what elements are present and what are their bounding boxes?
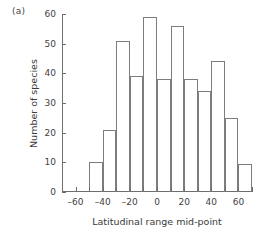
- panel-label: (a): [12, 6, 25, 16]
- x-axis-minor-tick: [171, 187, 172, 192]
- x-axis-tick-label: 0: [154, 197, 160, 207]
- histogram-bar: [225, 118, 239, 192]
- y-axis-tick-label: 0: [50, 187, 56, 197]
- x-axis-minor-tick: [225, 187, 226, 192]
- x-axis-tick-label: 60: [233, 197, 244, 207]
- y-axis-label: Number of species: [28, 59, 39, 148]
- x-axis-tick: [238, 187, 239, 192]
- x-axis-tick-label: 40: [206, 197, 217, 207]
- y-axis-tick-label: 50: [45, 39, 56, 49]
- x-axis-tick-label: –60: [68, 197, 84, 207]
- x-axis-minor-tick: [252, 187, 253, 192]
- x-axis-minor-tick: [198, 187, 199, 192]
- y-axis-tick: [62, 133, 66, 134]
- histogram-bar: [171, 26, 185, 192]
- x-axis-tick: [157, 187, 158, 192]
- histogram-bar: [130, 76, 144, 192]
- x-axis-tick: [130, 187, 131, 192]
- x-axis-tick: [211, 187, 212, 192]
- histogram-bar: [89, 162, 103, 192]
- histogram-bar: [211, 61, 225, 192]
- y-axis-tick: [62, 14, 66, 15]
- y-axis-tick-label: 10: [45, 157, 56, 167]
- y-axis-tick: [62, 162, 66, 163]
- y-axis-tick: [62, 44, 66, 45]
- histogram-bar: [143, 17, 157, 192]
- y-axis-tick-label: 40: [45, 68, 56, 78]
- plot-area: 0102030405060 –60–40–200204060: [62, 14, 252, 192]
- histogram-bar: [103, 130, 117, 192]
- y-axis-tick: [62, 73, 66, 74]
- histogram-bar: [238, 164, 252, 192]
- x-axis-minor-tick: [143, 187, 144, 192]
- x-axis-tick-label: –20: [122, 197, 138, 207]
- y-axis-tick: [62, 103, 66, 104]
- x-axis-minor-tick: [89, 187, 90, 192]
- x-axis-minor-tick: [116, 187, 117, 192]
- histogram-bar: [198, 91, 212, 192]
- x-axis-tick-label: –40: [95, 197, 111, 207]
- x-axis-tick: [76, 187, 77, 192]
- x-axis-minor-tick: [62, 187, 63, 192]
- x-axis-label: Latitudinal range mid-point: [62, 216, 252, 227]
- y-axis-tick-label: 20: [45, 128, 56, 138]
- x-axis-tick-label: 20: [178, 197, 189, 207]
- y-axis-tick: [62, 192, 66, 193]
- y-axis-tick-label: 30: [45, 98, 56, 108]
- x-axis-tick: [103, 187, 104, 192]
- y-axis-tick-label: 60: [45, 9, 56, 19]
- histogram-bar: [116, 41, 130, 192]
- histogram-bar: [184, 79, 198, 192]
- x-axis-tick: [184, 187, 185, 192]
- histogram-bar: [157, 79, 171, 192]
- chart-figure: (a) 0102030405060 –60–40–200204060 Latit…: [0, 0, 264, 238]
